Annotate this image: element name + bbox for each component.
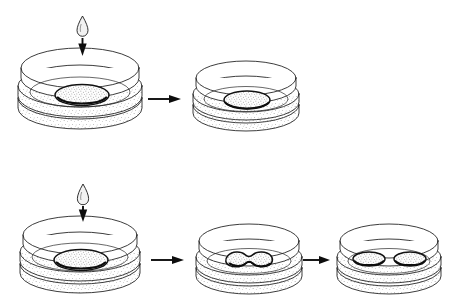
down-arrow-top — [78, 38, 86, 56]
petri-dish-top-right — [193, 61, 299, 131]
arrow-top-1 — [148, 95, 181, 103]
arrow-bottom-2 — [303, 256, 330, 264]
petri-dish-top-left — [18, 48, 142, 129]
colony-bottom-left — [54, 250, 108, 271]
petri-dish-bottom-left — [20, 216, 140, 293]
colony-top-right — [224, 91, 270, 109]
droplet-icon-top — [77, 16, 88, 36]
diagram-canvas — [0, 0, 461, 307]
down-arrow-bottom — [79, 206, 87, 222]
droplet-icon-bottom — [77, 184, 88, 205]
figure-root — [0, 0, 461, 307]
colony-top-left — [55, 85, 109, 106]
petri-dish-bottom-right — [337, 224, 441, 294]
petri-dish-bottom-middle — [196, 224, 302, 294]
arrow-bottom-1 — [151, 256, 184, 264]
colony-bottom-right-1 — [353, 252, 385, 266]
colony-bottom-right-2 — [394, 252, 426, 266]
